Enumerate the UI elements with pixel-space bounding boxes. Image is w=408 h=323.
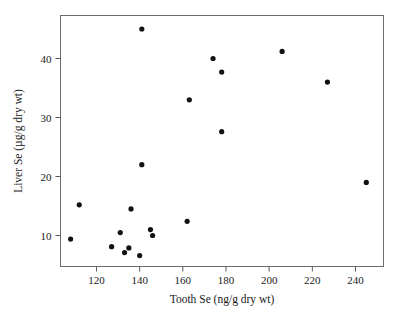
x-tick-label: 180 — [218, 274, 235, 286]
y-tick-label: 30 — [41, 112, 53, 124]
x-tick-label: 200 — [261, 274, 278, 286]
x-tick-label: 160 — [175, 274, 192, 286]
data-point — [122, 250, 127, 255]
data-point — [219, 129, 224, 134]
data-point — [150, 233, 155, 238]
data-point — [118, 230, 123, 235]
data-point — [325, 80, 330, 85]
data-point — [128, 206, 133, 211]
x-tick-label: 220 — [304, 274, 321, 286]
y-tick-label: 20 — [41, 171, 53, 183]
data-point — [126, 245, 131, 250]
x-axis-title: Tooth Se (ng/g dry wt) — [170, 293, 275, 306]
data-point — [364, 180, 369, 185]
y-axis-title: Liver Se (µg/g dry wt) — [12, 89, 25, 193]
x-tick-label: 140 — [131, 274, 148, 286]
data-point — [109, 244, 114, 249]
data-point — [185, 219, 190, 224]
data-point — [139, 162, 144, 167]
data-point — [68, 236, 73, 241]
data-point — [210, 56, 215, 61]
scatter-plot: 10203040 120140160180200220240 Tooth Se … — [0, 0, 408, 323]
data-point — [219, 69, 224, 74]
data-point — [77, 202, 82, 207]
x-tick-label: 120 — [88, 274, 105, 286]
data-point — [139, 26, 144, 31]
data-point — [148, 227, 153, 232]
data-point — [187, 97, 192, 102]
data-point — [280, 49, 285, 54]
data-point — [137, 253, 142, 258]
y-tick-label: 40 — [41, 53, 53, 65]
chart-page: 10203040 120140160180200220240 Tooth Se … — [0, 0, 408, 323]
x-tick-label: 240 — [347, 274, 364, 286]
y-tick-label: 10 — [41, 230, 53, 242]
